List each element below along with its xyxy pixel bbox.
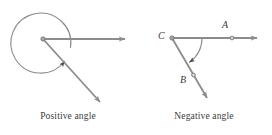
positive-vertex-point — [41, 37, 45, 41]
point-label-c: C — [158, 30, 165, 41]
point-label-a: A — [222, 19, 228, 30]
point-b-marker — [192, 73, 196, 77]
positive-terminal-side-ray — [43, 39, 100, 102]
point-c-marker — [170, 36, 174, 40]
negative-rotation-arc — [190, 38, 203, 62]
point-a-marker — [230, 36, 234, 40]
caption-positive-angle: Positive angle — [0, 111, 136, 121]
negative-angle-panel — [170, 36, 257, 98]
angle-figure: A B C Positive angle Negative angle — [0, 0, 272, 135]
positive-angle-panel — [11, 13, 125, 102]
caption-negative-angle: Negative angle — [136, 111, 272, 121]
point-label-b: B — [180, 74, 186, 85]
positive-rotation-arc — [11, 13, 71, 73]
ray-cb — [172, 38, 207, 98]
